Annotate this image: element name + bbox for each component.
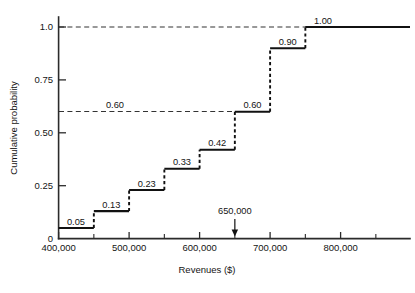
x-tick-label-700000: 700,000 — [253, 242, 287, 253]
step-label-0.42: 0.42 — [208, 138, 226, 148]
x-axis-ticks-major — [59, 232, 341, 239]
y-axis-tick-labels: 1.0 0.75 0.50 0.25 0 — [35, 21, 54, 244]
x-tick-label-800000: 800,000 — [323, 242, 357, 253]
y-tick-label-0.25: 0.25 — [35, 180, 54, 191]
annotation-650000-label: 650,000 — [218, 206, 252, 216]
cumulative-probability-chart: 1.0 0.75 0.50 0.25 0 Cumulative probabil… — [0, 0, 415, 293]
y-tick-label-0.50: 0.50 — [35, 127, 54, 138]
y-tick-label-0.75: 0.75 — [35, 74, 54, 85]
reference-label-0.60: 0.60 — [106, 100, 124, 110]
step-label-0.33: 0.33 — [173, 157, 191, 167]
step-function-risers — [94, 27, 306, 228]
down-arrow-icon — [232, 230, 239, 237]
step-label-0.05: 0.05 — [67, 217, 85, 227]
step-label-1.00: 1.00 — [314, 16, 332, 26]
y-tick-label-1.0: 1.0 — [40, 21, 53, 32]
x-tick-label-400000: 400,000 — [41, 242, 75, 253]
y-axis-title: Cumulative probability — [8, 81, 19, 175]
reference-line-labels: 0.60 — [106, 100, 124, 110]
step-label-0.23: 0.23 — [138, 179, 156, 189]
y-axis-ticks — [59, 27, 66, 186]
reference-lines — [59, 27, 410, 111]
x-axis-tick-labels: 400,000 500,000 600,000 700,000 800,000 — [41, 242, 357, 253]
step-function-treads — [59, 27, 410, 228]
x-tick-label-500000: 500,000 — [112, 242, 146, 253]
chart-svg: 1.0 0.75 0.50 0.25 0 Cumulative probabil… — [0, 0, 415, 293]
x-axis-title: Revenues ($) — [178, 264, 235, 275]
step-label-0.90: 0.90 — [279, 37, 297, 47]
step-label-0.60: 0.60 — [243, 100, 261, 110]
x-tick-label-600000: 600,000 — [182, 242, 216, 253]
step-label-0.13: 0.13 — [102, 200, 120, 210]
annotation-650000: 650,000 — [218, 206, 252, 237]
